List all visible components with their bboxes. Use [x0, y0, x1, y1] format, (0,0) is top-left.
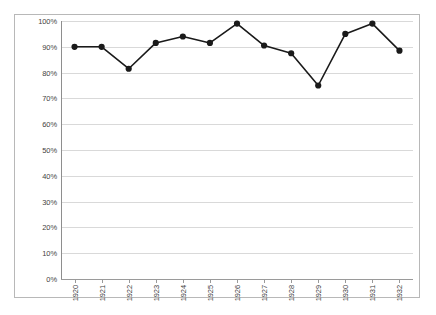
data-point-marker [153, 40, 159, 46]
x-tick [183, 279, 184, 283]
chart-title [0, 0, 436, 2]
x-tick [318, 279, 319, 283]
data-point-marker [71, 44, 77, 50]
x-tick-label: 1929 [314, 285, 323, 301]
x-tick [264, 279, 265, 283]
data-point-marker [315, 82, 321, 88]
y-tick-label: 10% [42, 249, 57, 258]
x-tick-label: 1922 [124, 285, 133, 301]
data-point-marker [207, 40, 213, 46]
y-tick-label: 80% [42, 68, 57, 77]
x-tick [129, 279, 130, 283]
data-point-marker [342, 31, 348, 37]
y-tick-label: 50% [42, 146, 57, 155]
y-tick-label: 60% [42, 120, 57, 129]
plot-area: 0%10%20%30%40%50%60%70%80%90%100% 192019… [61, 21, 413, 279]
x-tick [210, 279, 211, 283]
y-tick-label: 30% [42, 197, 57, 206]
data-point-marker [369, 20, 375, 26]
data-point-marker [396, 48, 402, 54]
data-point-marker [126, 66, 132, 72]
y-tick-label: 70% [42, 94, 57, 103]
line-series [61, 21, 413, 279]
x-tick [399, 279, 400, 283]
x-tick [156, 279, 157, 283]
x-tick [237, 279, 238, 283]
x-tick-label: 1927 [260, 285, 269, 301]
series-line [75, 24, 400, 86]
y-tick-label: 40% [42, 171, 57, 180]
data-point-marker [234, 20, 240, 26]
x-tick [291, 279, 292, 283]
x-tick [372, 279, 373, 283]
x-tick-label: 1930 [341, 285, 350, 301]
x-tick-label: 1923 [151, 285, 160, 301]
x-tick-label: 1928 [287, 285, 296, 301]
x-tick-label: 1932 [395, 285, 404, 301]
x-tick [345, 279, 346, 283]
x-tick-label: 1921 [97, 285, 106, 301]
chart-frame: 0%10%20%30%40%50%60%70%80%90%100% 192019… [14, 14, 420, 298]
data-point-marker [261, 42, 267, 48]
y-tick-label: 0% [46, 275, 57, 284]
data-point-marker [99, 44, 105, 50]
x-tick-label: 1924 [178, 285, 187, 301]
x-tick-label: 1920 [70, 285, 79, 301]
y-tick-label: 100% [38, 17, 57, 26]
y-tick-label: 90% [42, 42, 57, 51]
x-tick-label: 1931 [368, 285, 377, 301]
x-tick-label: 1926 [233, 285, 242, 301]
data-point-marker [180, 33, 186, 39]
x-tick [75, 279, 76, 283]
x-tick [102, 279, 103, 283]
data-point-marker [288, 50, 294, 56]
y-tick-label: 20% [42, 223, 57, 232]
x-tick-label: 1925 [205, 285, 214, 301]
